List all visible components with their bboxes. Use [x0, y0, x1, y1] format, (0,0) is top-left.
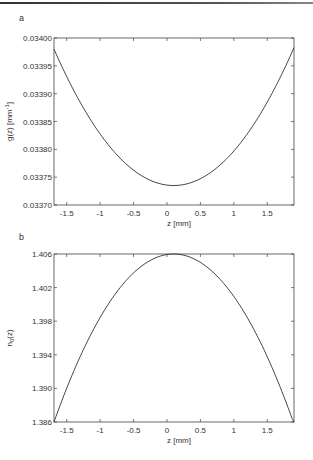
- y-tick-label: 0.03370: [23, 201, 52, 210]
- x-tick-label: 1.5: [262, 426, 274, 435]
- x-tick-label: 0: [165, 209, 170, 218]
- x-tick-label: 0.5: [195, 209, 207, 218]
- x-tick-label: -1: [97, 426, 105, 435]
- x-axis-label: z [mm]: [167, 219, 191, 228]
- figure-canvas: -1.5-1-0.500.511.50.033700.033750.033800…: [0, 0, 313, 460]
- x-tick-label: 0: [165, 426, 170, 435]
- y-tick-label: 1.402: [32, 284, 53, 293]
- data-curve: [54, 48, 294, 186]
- y-tick-label: 0.03395: [23, 62, 52, 71]
- x-tick-label: -0.5: [127, 426, 141, 435]
- y-axis-label: n0(z): [5, 329, 15, 346]
- y-tick-label: 1.398: [32, 317, 53, 326]
- plot-frame: [54, 38, 294, 205]
- y-axis-label: g(z) [mm-1]: [4, 102, 14, 141]
- y-tick-label: 0.03380: [23, 145, 52, 154]
- x-tick-label: 0.5: [195, 426, 207, 435]
- x-axis-label: z [mm]: [167, 436, 191, 445]
- y-tick-label: 1.386: [32, 418, 53, 427]
- y-tick-label: 0.03390: [23, 90, 52, 99]
- data-curve: [54, 254, 294, 422]
- x-tick-label: 1.5: [262, 209, 274, 218]
- x-tick-label: -0.5: [127, 209, 141, 218]
- x-tick-label: -1.5: [60, 426, 74, 435]
- x-tick-label: -1.5: [60, 209, 74, 218]
- chart-panel-a: -1.5-1-0.500.511.50.033700.033750.033800…: [4, 34, 294, 228]
- x-tick-label: 1: [232, 209, 237, 218]
- y-tick-label: 1.390: [32, 384, 53, 393]
- y-tick-label: 1.394: [32, 351, 53, 360]
- y-tick-label: 0.03385: [23, 118, 52, 127]
- y-tick-label: 0.03400: [23, 34, 52, 43]
- chart-panel-b: -1.5-1-0.500.511.51.3861.3901.3941.3981.…: [5, 250, 294, 445]
- x-tick-label: 1: [232, 426, 237, 435]
- y-tick-label: 0.03375: [23, 173, 52, 182]
- y-tick-label: 1.406: [32, 250, 53, 259]
- x-tick-label: -1: [97, 209, 105, 218]
